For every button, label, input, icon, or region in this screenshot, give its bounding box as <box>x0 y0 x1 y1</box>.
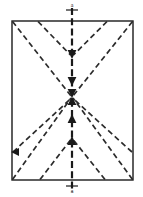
axis-label-top: a <box>67 2 77 8</box>
figure-canvas: a a <box>0 0 143 197</box>
axis-label-bottom: a <box>67 188 77 194</box>
technical-diagram <box>0 0 143 197</box>
